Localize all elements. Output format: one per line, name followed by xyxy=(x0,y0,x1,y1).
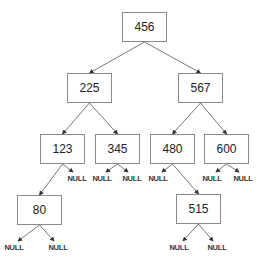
tree-node-345: 345 xyxy=(95,134,140,164)
edge-arrow xyxy=(106,164,118,172)
null-leaf: NULL xyxy=(48,243,67,252)
edge-arrow xyxy=(40,164,63,195)
edge-arrow xyxy=(227,164,240,172)
null-leaf: NULL xyxy=(148,174,167,183)
tree-node-515: 515 xyxy=(176,194,221,224)
tree-node-123: 123 xyxy=(40,134,85,164)
edge-arrow xyxy=(173,164,199,194)
edge-arrow xyxy=(118,164,129,172)
edge-arrow xyxy=(173,103,201,134)
null-leaf: NULL xyxy=(207,243,226,252)
null-leaf: NULL xyxy=(4,243,23,252)
edge-arrow xyxy=(90,103,118,134)
edge-arrow xyxy=(216,164,227,172)
edge-arrow xyxy=(63,103,90,134)
edge-arrow xyxy=(18,225,40,241)
edge-arrow xyxy=(201,103,227,134)
null-leaf: NULL xyxy=(202,174,221,183)
null-leaf: NULL xyxy=(92,174,111,183)
edge-arrow xyxy=(145,42,201,73)
tree-node-480: 480 xyxy=(150,134,195,164)
tree-node-225: 225 xyxy=(67,73,112,103)
tree-node-567: 567 xyxy=(178,73,223,103)
tree-node-600: 600 xyxy=(204,134,249,164)
edge-arrow xyxy=(40,225,55,241)
edge-arrow xyxy=(199,224,214,241)
null-leaf: NULL xyxy=(122,174,141,183)
null-leaf: NULL xyxy=(233,174,252,183)
tree-diagram: 45622556712334548060080515NULLNULLNULLNU… xyxy=(0,0,268,267)
edge-arrow xyxy=(162,164,173,172)
edge-arrow xyxy=(183,224,199,241)
null-leaf: NULL xyxy=(169,243,188,252)
edge-arrow xyxy=(90,42,145,73)
edge-arrow xyxy=(63,164,74,172)
tree-node-80: 80 xyxy=(17,195,62,225)
tree-node-456: 456 xyxy=(122,12,167,42)
null-leaf: NULL xyxy=(67,174,86,183)
